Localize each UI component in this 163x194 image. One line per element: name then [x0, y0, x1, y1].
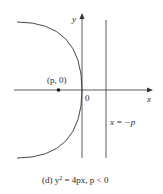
caption: (d) y2 = 4px, p < 0 [42, 175, 109, 186]
y-axis-arrow-icon [80, 13, 85, 19]
x-axis-label: x [146, 94, 151, 104]
x-axis-arrow-icon [147, 88, 153, 93]
directrix-label: x = −p [109, 117, 136, 127]
origin-label: 0 [85, 93, 90, 103]
focus-label: (p, 0) [47, 75, 67, 85]
parabola-diagram: y x 0 (p, 0) x = −p (d) y2 = 4px, p < 0 [0, 0, 163, 194]
focus-point [57, 88, 61, 92]
y-axis-label: y [71, 14, 76, 24]
